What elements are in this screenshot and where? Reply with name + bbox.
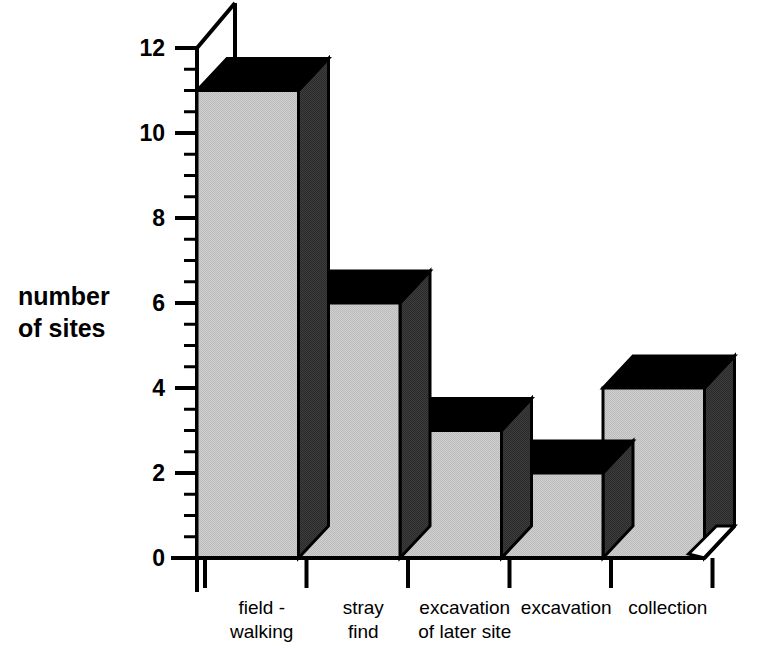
y-tick-label: 10 [139, 120, 165, 146]
y-tick-label: 0 [152, 545, 165, 571]
y-axis-title-line2: of sites [18, 314, 106, 342]
x-category-labels: field -walkingstrayfindexcavationof late… [229, 597, 707, 642]
y-tick-label: 4 [152, 375, 165, 401]
x-category-label: field - [239, 597, 285, 618]
bar-side-face [299, 59, 329, 559]
x-category-label: excavation [419, 597, 510, 618]
bar [197, 59, 329, 559]
x-category-label: find [348, 621, 379, 642]
y-tick-label: 8 [152, 205, 165, 231]
y-tick-marks [175, 48, 197, 558]
x-category-label: collection [628, 597, 707, 618]
x-tick-marks [205, 558, 713, 588]
bar-series [197, 59, 735, 559]
y-tick-labels: 024681012 [139, 35, 165, 571]
x-category-label: excavation [521, 597, 612, 618]
y-tick-label: 12 [139, 35, 165, 61]
y-tick-label: 6 [152, 290, 165, 316]
bar-chart: 024681012 field -walkingstrayfindexcavat… [0, 0, 769, 655]
x-category-label: stray [343, 597, 385, 618]
bar-side-face [400, 271, 430, 558]
x-category-label: of later site [418, 621, 511, 642]
chart-canvas: 024681012 field -walkingstrayfindexcavat… [0, 0, 769, 655]
x-category-label: walking [229, 621, 293, 642]
y-axis-title-line1: number [18, 282, 110, 310]
y-tick-label: 2 [152, 460, 165, 486]
bar-front-face [197, 91, 299, 559]
